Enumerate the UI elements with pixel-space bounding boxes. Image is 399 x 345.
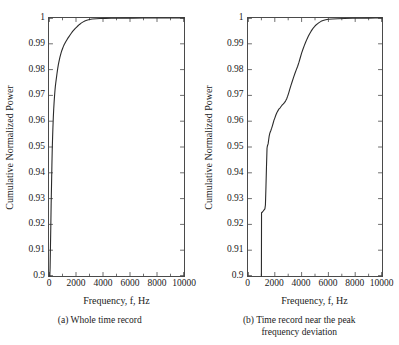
- panel-b: Cumulative Normalized Power 0.90.910.920…: [200, 0, 399, 345]
- figure-container: Cumulative Normalized Power 0.90.910.920…: [0, 0, 399, 345]
- tick-marks-b: [248, 18, 382, 276]
- y-tick-label: 0.93: [227, 194, 244, 204]
- y-tick-label: 0.94: [28, 168, 45, 178]
- x-tick-label: 8000: [148, 279, 167, 289]
- y-tick-label: 0.96: [28, 116, 45, 126]
- data-curve-b: [261, 18, 382, 276]
- y-tick-label: 0.97: [227, 91, 244, 101]
- panel-caption-b-line2: frequency deviation: [208, 327, 392, 339]
- tick-marks-a: [49, 18, 184, 276]
- y-tick-label: 1: [40, 13, 45, 23]
- x-axis-title-a: Frequency, f, Hz: [48, 295, 185, 306]
- y-tick-label: 0.99: [227, 39, 244, 49]
- x-tick-label: 6000: [121, 279, 140, 289]
- y-tick-label: 0.99: [28, 39, 45, 49]
- x-tick-label: 10000: [370, 279, 394, 289]
- plot-area-b: 0.90.910.920.930.940.950.960.970.980.991…: [247, 17, 383, 277]
- x-tick-label: 6000: [318, 279, 337, 289]
- panel-a: Cumulative Normalized Power 0.90.910.920…: [0, 0, 200, 345]
- y-axis-title-b: Cumulative Normalized Power: [202, 17, 216, 277]
- x-tick-label: 0: [47, 279, 52, 289]
- y-tick-label: 0.92: [28, 220, 45, 230]
- y-axis-title-a: Cumulative Normalized Power: [2, 17, 16, 277]
- plot-area-a: 0.90.910.920.930.940.950.960.970.980.991…: [48, 17, 185, 277]
- y-tick-label: 0.91: [227, 245, 244, 255]
- y-tick-label: 0.91: [28, 245, 45, 255]
- panel-caption-b-line1: (b) Time record near the peak: [208, 315, 392, 327]
- y-tick-label: 0.93: [28, 194, 45, 204]
- x-tick-label: 2000: [67, 279, 86, 289]
- x-axis-title-b: Frequency, f, Hz: [247, 295, 383, 306]
- y-tick-label: 0.9: [232, 271, 244, 281]
- plot-svg-a: [49, 18, 184, 276]
- x-tick-label: 4000: [292, 279, 311, 289]
- x-tick-label: 10000: [172, 279, 196, 289]
- plot-svg-b: [248, 18, 382, 276]
- panel-caption-b: (b) Time record near the peak frequency …: [208, 315, 392, 339]
- data-curve-a: [50, 18, 184, 276]
- y-tick-label: 0.9: [33, 271, 45, 281]
- y-tick-label: 0.96: [227, 116, 244, 126]
- y-tick-label: 0.97: [28, 91, 45, 101]
- y-tick-label: 0.98: [28, 65, 45, 75]
- x-tick-label: 4000: [94, 279, 113, 289]
- x-tick-label: 0: [245, 279, 250, 289]
- panel-caption-a: (a) Whole time record: [8, 315, 192, 327]
- y-tick-label: 0.94: [227, 168, 244, 178]
- x-tick-label: 8000: [345, 279, 364, 289]
- y-tick-label: 0.98: [227, 65, 244, 75]
- x-tick-label: 2000: [265, 279, 284, 289]
- y-tick-label: 0.92: [227, 220, 244, 230]
- y-tick-label: 1: [239, 13, 244, 23]
- y-tick-label: 0.95: [28, 142, 45, 152]
- y-tick-label: 0.95: [227, 142, 244, 152]
